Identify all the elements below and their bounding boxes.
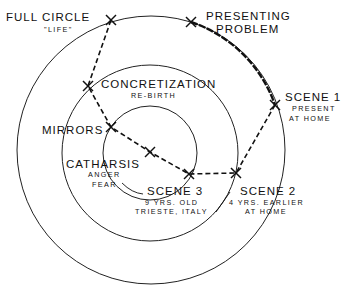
x-mark-full-circle [106,15,116,25]
catharsis-subtitle-2: FEAR [92,180,117,189]
presenting-problem-title-2: PROBLEM [216,23,279,35]
scene-2-subtitle-2: AT HOME [245,207,287,216]
presenting-problem-title-1: PRESENTING [206,10,291,22]
scene-1-title: SCENE 1 [285,91,341,103]
mirrors-title: MIRRORS [42,124,103,136]
scene-3-subtitle: 9 YRS. OLD [145,198,198,207]
catharsis-title: CATHARSIS [66,158,140,170]
scene-3-subtitle-2: TRIESTE, ITALY [135,207,208,216]
full-circle-title: FULL CIRCLE [6,11,90,23]
scene-1-subtitle-2: AT HOME [289,114,331,123]
concretization-subtitle: RE-BIRTH [131,91,176,100]
concretization-title: CONCRETIZATION [101,78,216,90]
x-mark-mirrors [106,122,116,132]
diagram-canvas: FULL CIRCLE "LIFE" PRESENTING PROBLEM SC… [0,0,349,302]
full-circle-subtitle: "LIFE" [44,25,73,34]
italy-leader-line [216,192,230,212]
x-mark-concretization [83,81,93,91]
scene-1-subtitle: PRESENT [292,104,336,113]
scene-3-title: SCENE 3 [147,185,203,197]
journey-path [88,20,275,174]
x-mark-catharsis [145,147,155,157]
scene-2-subtitle: 4 YRS. EARLIER [229,198,304,207]
x-marks [83,15,280,179]
x-mark-scene-1 [270,100,280,110]
catharsis-subtitle: ANGER [88,170,121,179]
scene-2-title: SCENE 2 [240,185,296,197]
